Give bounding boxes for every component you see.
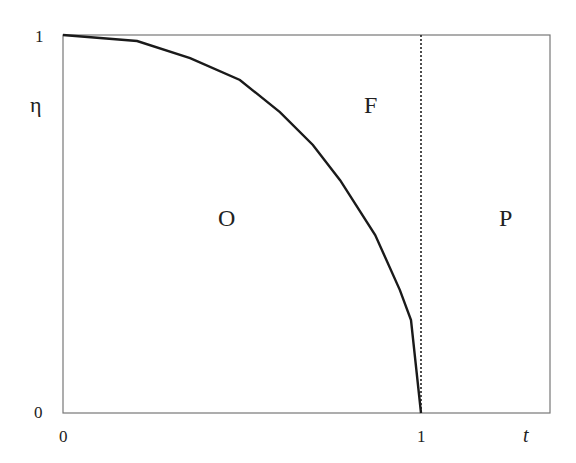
x-tick-1: 1	[417, 427, 426, 447]
y-axis-label: η	[30, 92, 42, 118]
x-tick-0: 0	[59, 427, 68, 447]
plot-frame	[63, 35, 550, 413]
y-tick-0: 0	[34, 403, 43, 423]
y-tick-1: 1	[35, 27, 44, 47]
region-label-f: F	[364, 92, 377, 119]
x-axis-label: t	[523, 424, 529, 447]
region-label-p: P	[499, 205, 512, 232]
phase-diagram	[0, 0, 576, 463]
region-label-o: O	[218, 205, 235, 232]
